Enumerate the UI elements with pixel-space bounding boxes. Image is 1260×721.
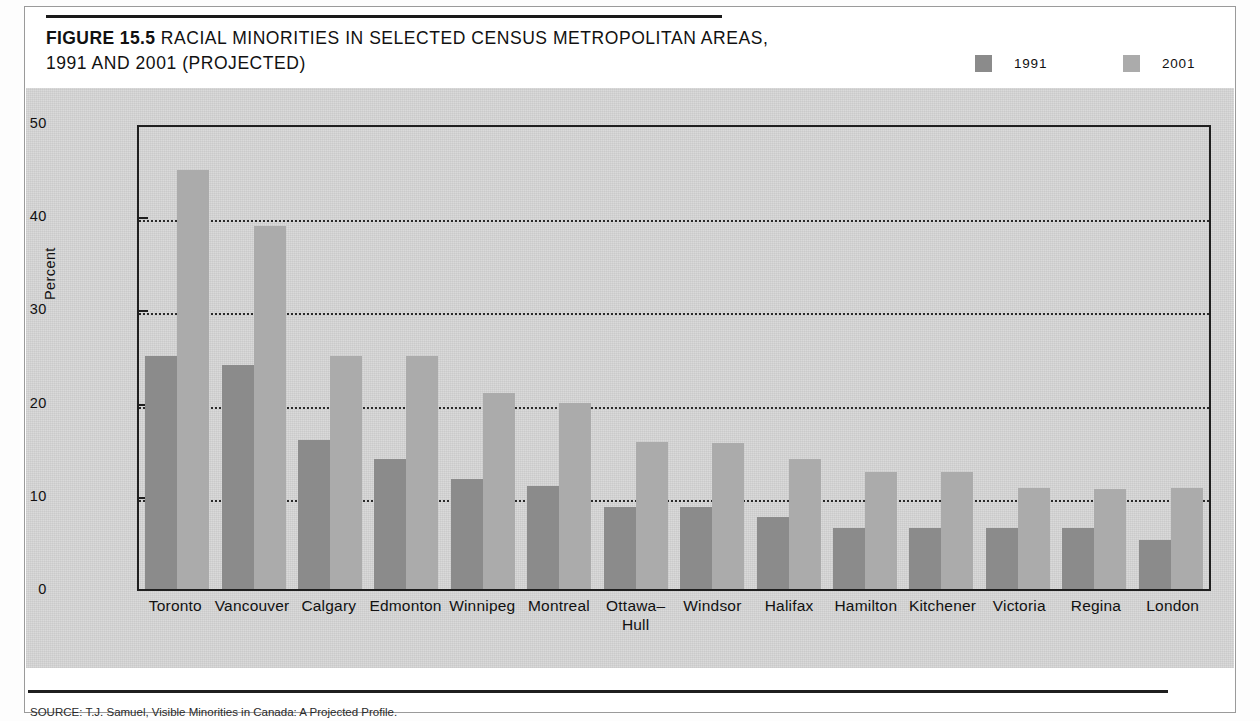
source-note: SOURCE: T.J. Samuel, Visible Minorities …: [30, 706, 1230, 721]
x-axis-label: Winnipeg: [444, 596, 521, 642]
x-axis-label: Montreal: [521, 596, 598, 642]
bar-2001[interactable]: [941, 472, 973, 589]
bar-group: [215, 127, 291, 589]
x-axis-label-line-1: Victoria: [993, 597, 1046, 614]
plot-area: [137, 125, 1211, 591]
bar-1991[interactable]: [833, 528, 865, 590]
x-axis-label: Victoria: [981, 596, 1058, 642]
bar-1991[interactable]: [680, 507, 712, 589]
bar-group: [1056, 127, 1132, 589]
x-axis-label: Calgary: [290, 596, 367, 642]
figure-title-part-2: 1991 AND 2001 (PROJECTED): [46, 53, 306, 73]
y-axis-tick-20: 20: [0, 395, 47, 411]
bar-2001[interactable]: [712, 443, 744, 589]
x-axis-label-line-1: Toronto: [149, 597, 202, 614]
legend-swatch-2001: [1123, 55, 1140, 72]
legend-label-1991: 1991: [1014, 56, 1047, 71]
y-axis-tick-50: 50: [0, 115, 47, 131]
bar-2001[interactable]: [1018, 488, 1050, 589]
bar-2001[interactable]: [865, 472, 897, 589]
title-top-rule: [46, 15, 722, 18]
y-axis-tick-30: 30: [0, 301, 47, 317]
x-axis-label-line-2: Hull: [597, 615, 674, 634]
bar-2001[interactable]: [1171, 488, 1203, 589]
plot-inner: [139, 127, 1209, 589]
bar-group: [903, 127, 979, 589]
figure-title-block: FIGURE 15.5 RACIAL MINORITIES IN SELECTE…: [46, 26, 746, 76]
bar-2001[interactable]: [406, 356, 438, 589]
bar-2001[interactable]: [177, 170, 209, 589]
figure-number: FIGURE 15.5: [46, 28, 155, 48]
bar-group: [750, 127, 826, 589]
bar-1991[interactable]: [1139, 540, 1171, 589]
x-axis-label: Vancouver: [214, 596, 291, 642]
bars-layer: [139, 127, 1209, 589]
bar-1991[interactable]: [1062, 528, 1094, 589]
x-axis-label-line-1: Montreal: [528, 597, 590, 614]
y-axis-tick-0: 0: [0, 581, 47, 597]
bar-1991[interactable]: [298, 440, 330, 589]
bar-1991[interactable]: [374, 459, 406, 589]
bar-group: [674, 127, 750, 589]
legend-item-2001: 2001: [1123, 55, 1195, 72]
bar-1991[interactable]: [909, 528, 941, 589]
x-axis-label-line-1: Kitchener: [909, 597, 976, 614]
bar-1991[interactable]: [145, 356, 177, 589]
x-axis-label-line-1: Vancouver: [215, 597, 290, 614]
source-rule: [28, 690, 1168, 693]
x-axis-label-line-1: Halifax: [765, 597, 814, 614]
bar-1991[interactable]: [451, 479, 483, 589]
bar-group: [1132, 127, 1208, 589]
x-axis-label-line-1: Regina: [1071, 597, 1121, 614]
bar-1991[interactable]: [604, 507, 636, 589]
x-axis-label-line-1: Ottawa–: [606, 597, 665, 614]
chart-legend: 1991 2001: [975, 55, 1225, 77]
bar-2001[interactable]: [559, 403, 591, 589]
bar-2001[interactable]: [254, 226, 286, 589]
x-axis-label-line-1: London: [1146, 597, 1199, 614]
figure-title-part-1: RACIAL MINORITIES IN SELECTED CENSUS MET…: [161, 28, 768, 48]
bar-2001[interactable]: [789, 459, 821, 589]
bar-group: [292, 127, 368, 589]
x-axis-labels: TorontoVancouverCalgaryEdmontonWinnipegM…: [137, 596, 1211, 642]
x-axis-label: Regina: [1058, 596, 1135, 642]
bar-group: [368, 127, 444, 589]
legend-swatch-1991: [975, 55, 992, 72]
x-axis-label: London: [1134, 596, 1211, 642]
x-axis-label-line-1: Winnipeg: [449, 597, 515, 614]
x-axis-label: Hamilton: [827, 596, 904, 642]
figure-root: FIGURE 15.5 RACIAL MINORITIES IN SELECTE…: [0, 0, 1260, 721]
x-axis-label: Windsor: [674, 596, 751, 642]
figure-title-line-2: 1991 AND 2001 (PROJECTED): [46, 51, 746, 76]
bar-2001[interactable]: [1094, 489, 1126, 589]
bar-2001[interactable]: [483, 393, 515, 589]
bar-1991[interactable]: [222, 365, 254, 589]
bar-2001[interactable]: [636, 442, 668, 589]
x-axis-label: Edmonton: [367, 596, 444, 642]
y-axis-tick-40: 40: [0, 208, 47, 224]
x-axis-label-line-1: Calgary: [301, 597, 356, 614]
legend-label-2001: 2001: [1162, 56, 1195, 71]
x-axis-label-line-1: Hamilton: [834, 597, 897, 614]
bar-2001[interactable]: [330, 356, 362, 589]
bar-1991[interactable]: [986, 528, 1018, 589]
legend-item-1991: 1991: [975, 55, 1047, 72]
bar-group: [980, 127, 1056, 589]
x-axis-label-line-1: Edmonton: [369, 597, 441, 614]
x-axis-label: Kitchener: [904, 596, 981, 642]
figure-title-line-1: FIGURE 15.5 RACIAL MINORITIES IN SELECTE…: [46, 26, 746, 51]
x-axis-label: Halifax: [751, 596, 828, 642]
bar-group: [598, 127, 674, 589]
x-axis-label: Ottawa–Hull: [597, 596, 674, 642]
bar-group: [521, 127, 597, 589]
bar-group: [827, 127, 903, 589]
y-axis-title: Percent: [42, 247, 58, 300]
bar-1991[interactable]: [527, 486, 559, 589]
x-axis-label-line-1: Windsor: [683, 597, 741, 614]
bar-group: [445, 127, 521, 589]
x-axis-label: Toronto: [137, 596, 214, 642]
bar-1991[interactable]: [757, 517, 789, 589]
bar-group: [139, 127, 215, 589]
y-axis-tick-10: 10: [0, 488, 47, 504]
